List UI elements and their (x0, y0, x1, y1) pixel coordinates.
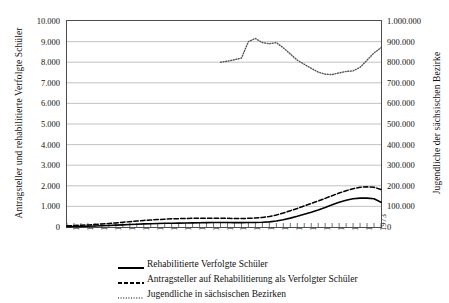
y-axis-left-tick-label: 10.000 (2, 16, 60, 26)
y-axis-right-tick-label: 600.000 (387, 98, 415, 108)
y-axis-left-tick-label: 9.000 (2, 37, 60, 47)
legend-item: Jugendliche in sächsischen Bezirken (118, 286, 418, 301)
plot-svg (66, 20, 382, 228)
chart-legend: Rehabilitierte Verfolgte SchülerAntragst… (118, 256, 418, 301)
y-axis-left-tick-label: 5.000 (2, 119, 60, 129)
legend-swatch-dotted-icon (118, 289, 144, 299)
y-axis-left-tick-label: 2.000 (2, 181, 60, 191)
y-axis-right-tick-label: 1.000.000 (387, 16, 421, 26)
legend-swatch-dashed-icon (118, 274, 144, 284)
y-axis-right-tick-label: 700.000 (387, 78, 415, 88)
legend-label: Antragsteller auf Rehabilitierung als Ve… (147, 274, 358, 284)
legend-label: Rehabilitierte Verfolgte Schüler (147, 259, 268, 269)
y-axis-left-tick-label: 6.000 (2, 98, 60, 108)
y-axis-left-tick-label: 4.000 (2, 140, 60, 150)
y-axis-left-tick-label: 3.000 (2, 160, 60, 170)
y-axis-left-tick-label: 1.000 (2, 201, 60, 211)
y-axis-left-tick-label: 8.000 (2, 57, 60, 67)
chart-figure: Antragsteller und rehabilitierte Verfolg… (0, 0, 449, 303)
y-axis-right-tick-label: 200.000 (387, 181, 415, 191)
y-axis-right-tick-label: 800.000 (387, 57, 415, 67)
y-axis-left-tick-label: 7.000 (2, 78, 60, 88)
y-axis-right-tick-label: 300.000 (387, 160, 415, 170)
legend-item: Rehabilitierte Verfolgte Schüler (118, 256, 418, 271)
y-axis-right-tick-label: 400.000 (387, 140, 415, 150)
y-axis-left-tick-label: 0 (2, 222, 60, 232)
y-axis-right-tick-label: 900.000 (387, 37, 415, 47)
y-axis-right-tick-label: 100.000 (387, 201, 415, 211)
legend-label: Jugendliche in sächsischen Bezirken (147, 289, 286, 299)
y-axis-right-title: Jugendliche der sächsischen Bezirke (432, 8, 442, 238)
y-axis-right-tick-label: 500.000 (387, 119, 415, 129)
legend-swatch-solid-icon (118, 259, 144, 269)
legend-item: Antragsteller auf Rehabilitierung als Ve… (118, 271, 418, 286)
plot-area (66, 20, 382, 228)
